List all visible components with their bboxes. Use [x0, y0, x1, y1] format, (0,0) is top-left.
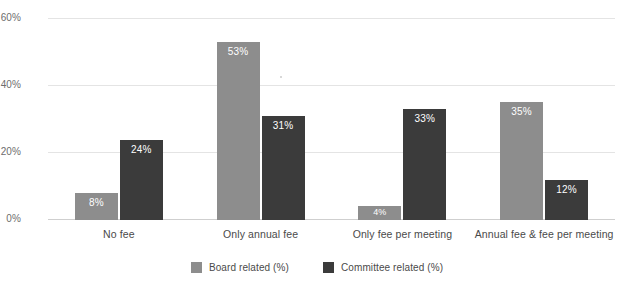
x-tick-label-only-fee-per-meeting: Only fee per meeting: [332, 228, 474, 240]
bar-board-annual-fee-and-fee-per-meeting[interactable]: 35%: [500, 102, 543, 220]
y-tick-label-60: 60%: [0, 12, 21, 23]
bar-group-bars: 4% 33%: [332, 18, 474, 220]
bar-group-bars: 8% 24%: [48, 18, 190, 220]
bar-value-label: 4%: [358, 207, 401, 217]
y-tick-label-20: 20%: [0, 146, 21, 157]
x-tick-label-annual-fee-and-fee-per-meeting: Annual fee & fee per meeting: [473, 228, 615, 240]
scan-artifact-speck: [280, 76, 282, 78]
bar-committee-only-annual-fee[interactable]: 31%: [262, 116, 305, 220]
bar-value-label: 8%: [75, 197, 118, 208]
bar-committee-annual-fee-and-fee-per-meeting[interactable]: 12%: [545, 180, 588, 220]
grouped-bar-chart: 60% 40% 20% 0% 8% 24% 53%: [0, 0, 634, 291]
legend-item-label: Committee related (%): [341, 262, 443, 273]
bar-board-no-fee[interactable]: 8%: [75, 193, 118, 220]
bar-committee-only-fee-per-meeting[interactable]: 33%: [403, 109, 446, 220]
legend-item-committee-related[interactable]: Committee related (%): [323, 262, 443, 273]
bar-board-only-fee-per-meeting[interactable]: 4%: [358, 206, 401, 220]
bar-group-no-fee: 8% 24%: [48, 18, 190, 220]
x-axis-labels: No fee Only annual fee Only fee per meet…: [48, 228, 615, 240]
x-tick-label-only-annual-fee: Only annual fee: [190, 228, 332, 240]
bar-board-only-annual-fee[interactable]: 53%: [217, 42, 260, 220]
x-tick-label-no-fee: No fee: [48, 228, 190, 240]
legend-swatch-icon: [323, 262, 334, 273]
bar-committee-no-fee[interactable]: 24%: [120, 140, 163, 220]
legend-swatch-icon: [191, 262, 202, 273]
bar-value-label: 12%: [545, 184, 588, 195]
bar-value-label: 24%: [120, 144, 163, 155]
chart-legend: Board related (%) Committee related (%): [0, 262, 634, 273]
bar-group-only-annual-fee: 53% 31%: [190, 18, 332, 220]
bar-group-only-fee-per-meeting: 4% 33%: [332, 18, 474, 220]
y-tick-label-40: 40%: [0, 79, 21, 90]
bar-value-label: 33%: [403, 113, 446, 124]
bar-groups: 8% 24% 53% 31%: [48, 18, 615, 220]
bar-group-annual-fee-and-fee-per-meeting: 35% 12%: [473, 18, 615, 220]
bar-group-bars: 35% 12%: [473, 18, 615, 220]
plot-area: 60% 40% 20% 0% 8% 24% 53%: [48, 18, 615, 220]
legend-item-label: Board related (%): [209, 262, 289, 273]
legend-item-board-related[interactable]: Board related (%): [191, 262, 289, 273]
bar-group-bars: 53% 31%: [190, 18, 332, 220]
y-tick-label-0: 0%: [0, 213, 21, 224]
bar-value-label: 31%: [262, 120, 305, 131]
bar-value-label: 53%: [217, 46, 260, 57]
bar-value-label: 35%: [500, 106, 543, 117]
